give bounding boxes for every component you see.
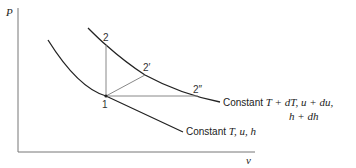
- upper-curve-label-prefix: Constant: [223, 97, 266, 108]
- y-axis-label: P: [5, 6, 13, 18]
- pv-diagram: P v 1 2 2′ 2″ Constant T + dT, u + du, h…: [0, 0, 356, 168]
- point-2dprime-label: 2″: [193, 84, 203, 95]
- upper-curve-label: Constant T + dT, u + du,: [223, 96, 333, 108]
- point-2prime-label: 2′: [143, 62, 151, 73]
- line-1-to-2prime: [106, 75, 145, 96]
- x-axis-label: v: [246, 154, 251, 166]
- point-1-marker: [104, 94, 107, 97]
- upper-curve-label-math: T + dT, u + du,: [266, 96, 334, 108]
- point-1-label: 1: [102, 99, 108, 110]
- point-2-label: 2: [103, 32, 109, 43]
- lower-curve-label: Constant T, u, h: [186, 125, 257, 137]
- upper-curve-label-line2: h + dh: [289, 110, 319, 122]
- lower-curve-label-prefix: Constant: [186, 126, 229, 137]
- lower-curve-label-math: T, u, h: [229, 125, 257, 137]
